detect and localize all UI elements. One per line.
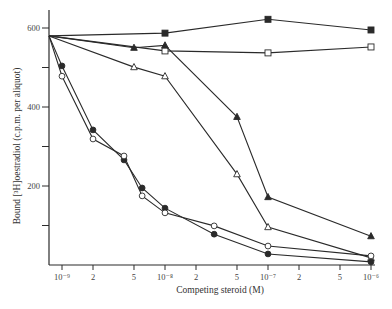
series-line	[49, 36, 371, 53]
y-axis-title: Bound [³H]oestradiol (c.p.m. per aliquot…	[12, 68, 23, 225]
circle-marker-icon	[211, 223, 217, 229]
data-series	[49, 16, 374, 264]
square-marker-icon	[162, 48, 168, 54]
y-tick-label: 200	[27, 181, 40, 191]
square-marker-icon	[265, 16, 271, 22]
y-tick-label: 600	[27, 23, 40, 33]
circle-marker-icon	[59, 63, 65, 69]
circle-marker-icon	[265, 251, 271, 257]
series-open-circle	[49, 36, 374, 259]
circle-marker-icon	[139, 193, 145, 199]
chart-canvas: 200400600 10⁻⁹2510⁻⁸2510⁻⁷2510⁻⁶ Competi…	[0, 0, 392, 309]
x-axis-title: Competing steroid (M)	[176, 285, 264, 296]
circle-marker-icon	[368, 259, 374, 265]
series-open-square	[49, 36, 374, 56]
x-tick-label: 10⁻⁶	[363, 272, 379, 282]
x-tick-label: 2	[194, 272, 198, 282]
circle-marker-icon	[59, 73, 65, 79]
square-marker-icon	[368, 27, 374, 33]
circle-marker-icon	[90, 127, 96, 133]
circle-marker-icon	[211, 231, 217, 237]
x-tick-label: 10⁻⁷	[260, 272, 276, 282]
triangle-marker-icon	[265, 223, 272, 229]
x-tick-label: 10⁻⁹	[54, 272, 70, 282]
series-filled-triangle	[49, 36, 374, 239]
y-ticks: 200400600	[27, 23, 49, 226]
series-filled-square	[49, 16, 374, 36]
x-tick-label: 5	[338, 272, 342, 282]
circle-marker-icon	[139, 185, 145, 191]
x-ticks: 10⁻⁹2510⁻⁸2510⁻⁷2510⁻⁶	[54, 265, 379, 282]
circle-marker-icon	[90, 136, 96, 142]
x-tick-label: 2	[91, 272, 95, 282]
circle-marker-icon	[162, 210, 168, 216]
circle-marker-icon	[121, 153, 127, 159]
square-marker-icon	[162, 30, 168, 36]
triangle-marker-icon	[162, 42, 169, 48]
square-marker-icon	[368, 44, 374, 50]
series-line	[49, 36, 371, 236]
x-tick-label: 10⁻⁸	[157, 272, 173, 282]
y-tick-label: 400	[27, 102, 40, 112]
series-line	[49, 19, 371, 36]
x-tick-label: 5	[235, 272, 239, 282]
series-line	[49, 36, 371, 256]
x-tick-label: 2	[297, 272, 301, 282]
x-tick-label: 5	[132, 272, 136, 282]
square-marker-icon	[265, 50, 271, 56]
circle-marker-icon	[368, 253, 374, 259]
series-filled-circle	[49, 36, 374, 265]
series-line	[49, 36, 371, 262]
circle-marker-icon	[265, 243, 271, 249]
triangle-marker-icon	[265, 193, 272, 199]
